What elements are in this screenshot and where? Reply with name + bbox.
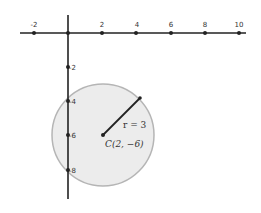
svg-text:2: 2 <box>100 21 104 29</box>
svg-text:-6: -6 <box>69 132 77 140</box>
svg-text:-2: -2 <box>31 21 38 29</box>
svg-text:-2: -2 <box>69 64 76 72</box>
svg-text:6: 6 <box>169 21 174 29</box>
svg-text:4: 4 <box>135 21 140 29</box>
radius-endpoint <box>138 96 142 100</box>
svg-text:8: 8 <box>203 21 207 29</box>
svg-text:-4: -4 <box>69 98 77 106</box>
center-label: C(2, −6) <box>105 139 144 149</box>
radius-label: r = 3 <box>123 120 147 130</box>
center-point <box>101 133 105 137</box>
x-axis-labels: -2 2 4 6 8 10 <box>31 21 244 29</box>
coordinate-diagram: -2 2 4 6 8 10 -2 -4 -6 -8 r = 3 C(2, −6) <box>0 0 261 213</box>
svg-text:10: 10 <box>235 21 244 29</box>
svg-text:-8: -8 <box>69 167 76 175</box>
